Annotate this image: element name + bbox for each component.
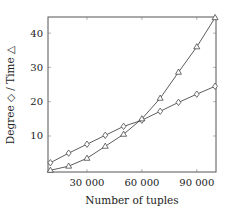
x-tick-label: 30 000	[69, 177, 104, 188]
diamond-marker	[121, 123, 126, 129]
y-axis-label: Degree ◇ / Time △	[4, 45, 16, 144]
diamond-marker	[48, 160, 53, 166]
diamond-marker	[66, 150, 71, 156]
diamond-marker	[85, 141, 90, 147]
series-time	[47, 14, 218, 172]
x-tick-label: 90 000	[179, 177, 214, 188]
y-tick-label: 10	[30, 130, 43, 141]
triangle-marker	[121, 131, 127, 136]
triangle-marker	[84, 155, 90, 160]
y-tick-label: 40	[30, 28, 43, 39]
triangle-marker	[194, 44, 200, 49]
triangle-marker	[102, 143, 108, 148]
series-degree	[48, 83, 218, 166]
plot-frame	[48, 17, 216, 172]
diamond-marker	[213, 83, 218, 89]
diamond-marker	[194, 91, 199, 97]
diamond-marker	[176, 99, 181, 105]
y-tick-label: 30	[30, 62, 43, 73]
diamond-marker	[158, 108, 163, 114]
x-tick-labels: 30 00060 00090 000	[69, 177, 214, 188]
diamond-marker	[103, 132, 108, 138]
chart-canvas: 30 00060 00090 000 10203040 Number of tu…	[0, 0, 226, 213]
y-tick-labels: 10203040	[30, 28, 43, 142]
y-tick-label: 20	[30, 96, 43, 107]
data-series	[47, 14, 218, 172]
x-axis-label: Number of tuples	[85, 194, 178, 206]
x-tick-label: 60 000	[124, 177, 159, 188]
axis-ticks	[48, 17, 216, 172]
